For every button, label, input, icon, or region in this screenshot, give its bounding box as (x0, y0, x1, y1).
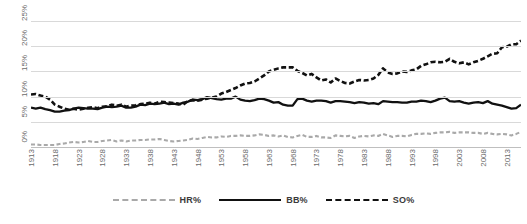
x-axis-label: 1963 (265, 149, 274, 167)
chart-legend: HR%BB%SO% (0, 191, 527, 209)
plot-area (31, 21, 521, 147)
gridline (31, 21, 521, 22)
legend-swatch-icon (113, 199, 175, 201)
series-line-bb (31, 97, 521, 112)
x-axis-label: 2003 (455, 149, 464, 167)
gridline (31, 97, 521, 98)
x-axis: 1913191819231928193319381943194819531958… (31, 149, 521, 183)
x-axis-label: 1983 (360, 149, 369, 167)
line-chart: 25%20%15%10%5%0% 19131918192319281933193… (0, 0, 527, 224)
y-axis-label: 0% (20, 131, 29, 143)
y-axis-label: 25% (20, 5, 29, 21)
x-axis-label: 1913 (27, 149, 36, 167)
y-axis: 25%20%15%10%5%0% (0, 0, 31, 160)
legend-swatch-icon (219, 199, 281, 201)
x-axis-label: 1973 (312, 149, 321, 167)
x-axis-label: 1953 (217, 149, 226, 167)
x-axis-label: 1943 (170, 149, 179, 167)
legend-label: HR% (180, 195, 202, 205)
legend-swatch-icon (326, 199, 388, 201)
x-axis-label: 1928 (98, 149, 107, 167)
legend-item-bb[interactable]: BB% (219, 195, 308, 205)
gridline (31, 122, 521, 123)
y-axis-label: 5% (20, 106, 29, 118)
y-axis-label: 20% (20, 30, 29, 46)
series-line-hr (31, 132, 521, 145)
x-axis-label: 1948 (194, 149, 203, 167)
legend-label: SO% (393, 195, 415, 205)
x-axis-label: 1933 (122, 149, 131, 167)
y-axis-label: 15% (20, 55, 29, 71)
legend-item-so[interactable]: SO% (326, 195, 415, 205)
x-axis-label: 1978 (336, 149, 345, 167)
x-axis-label: 1938 (146, 149, 155, 167)
x-axis-label: 2013 (503, 149, 512, 167)
x-axis-label: 1923 (75, 149, 84, 167)
x-axis-label: 1993 (408, 149, 417, 167)
x-axis-label: 1968 (289, 149, 298, 167)
gridline (31, 71, 521, 72)
x-axis-label: 1998 (431, 149, 440, 167)
x-axis-label: 1918 (51, 149, 60, 167)
y-axis-label: 10% (20, 81, 29, 97)
legend-item-hr[interactable]: HR% (113, 195, 202, 205)
legend-label: BB% (286, 195, 308, 205)
x-axis-label: 1958 (241, 149, 250, 167)
x-axis-label: 1988 (384, 149, 393, 167)
x-axis-label: 2008 (479, 149, 488, 167)
gridline (31, 46, 521, 47)
series-layer (31, 21, 521, 147)
